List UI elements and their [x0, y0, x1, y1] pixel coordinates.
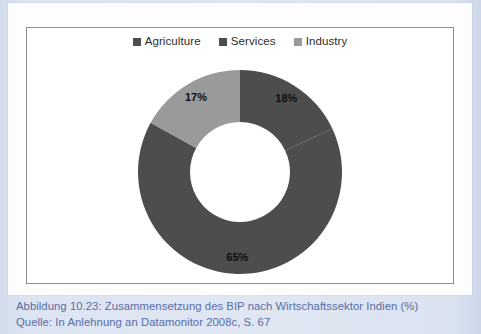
square-swatch-icon	[219, 38, 227, 46]
legend-item-industry[interactable]: Industry	[294, 36, 348, 48]
figure-caption: Abbildung 10.23: Zusammensetzung des BIP…	[16, 299, 471, 330]
square-swatch-icon	[133, 38, 141, 46]
donut-value-label-services: 65%	[226, 251, 248, 263]
donut-value-label-industry: 17%	[185, 90, 207, 102]
legend-item-services[interactable]: Services	[219, 36, 276, 48]
donut-value-label-agriculture: 18%	[275, 91, 297, 103]
caption-line-2: Quelle: In Anlehnung an Datamonitor 2008…	[16, 315, 471, 331]
legend-item-agriculture[interactable]: Agriculture	[133, 36, 201, 48]
chart-plot-frame: Agriculture Services Industry 18%65%17%	[26, 27, 454, 284]
caption-line-1: Abbildung 10.23: Zusammensetzung des BIP…	[16, 299, 471, 315]
chart-legend: Agriculture Services Industry	[27, 36, 453, 48]
figure-card: Agriculture Services Industry 18%65%17%	[8, 3, 472, 295]
legend-label-industry: Industry	[306, 36, 348, 48]
legend-label-services: Services	[231, 36, 276, 48]
donut-chart-container: 18%65%17%	[27, 64, 453, 279]
donut-slice-group	[138, 70, 342, 274]
donut-chart: 18%65%17%	[136, 68, 344, 276]
legend-label-agriculture: Agriculture	[145, 36, 201, 48]
square-swatch-icon	[294, 38, 302, 46]
page-background: Agriculture Services Industry 18%65%17%	[0, 0, 481, 334]
